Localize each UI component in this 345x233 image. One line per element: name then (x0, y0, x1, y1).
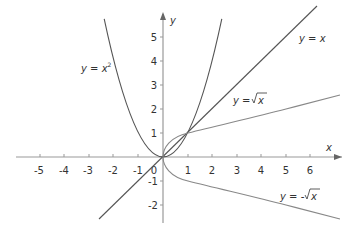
curve-sqrt (163, 95, 340, 157)
x-axis-label: x (325, 142, 332, 153)
svg-text:1: 1 (151, 128, 157, 139)
svg-text:2: 2 (151, 104, 157, 115)
label-neg-sqrt: y = - x (279, 189, 320, 202)
svg-text:-3: -3 (83, 165, 93, 176)
svg-text:-2: -2 (108, 165, 118, 176)
svg-text:3: 3 (234, 165, 240, 176)
y-axis-label: y (169, 15, 177, 26)
svg-text:x: x (257, 95, 264, 106)
svg-text:x: x (310, 191, 317, 202)
svg-text:y =: y = (232, 95, 250, 106)
curve-identity (99, 6, 317, 219)
label-x-squared: y = x2 (80, 61, 112, 74)
x-tick-labels: -5 -4 -3 -2 -1 0 1 2 3 4 5 6 (34, 165, 313, 176)
function-graph: -5 -4 -3 -2 -1 0 1 2 3 4 5 6 5 4 3 2 1 -… (0, 0, 345, 233)
label-sqrt: y = x (232, 93, 267, 106)
x-axis-arrow-icon (334, 154, 342, 160)
svg-text:0: 0 (151, 165, 157, 176)
svg-text:1: 1 (185, 165, 191, 176)
y-axis-arrow-icon (160, 12, 166, 20)
svg-text:-2: -2 (148, 200, 158, 211)
svg-text:-1: -1 (133, 165, 143, 176)
svg-text:6: 6 (307, 165, 313, 176)
svg-text:-4: -4 (59, 165, 69, 176)
label-identity: y = x (298, 33, 326, 44)
svg-text:4: 4 (151, 56, 157, 67)
svg-text:-1: -1 (148, 176, 158, 187)
svg-text:y = x2: y = x2 (80, 61, 112, 74)
svg-text:y = -: y = - (279, 191, 305, 202)
svg-text:2: 2 (209, 165, 215, 176)
svg-text:3: 3 (151, 80, 157, 91)
y-tick-labels: 5 4 3 2 1 -1 -2 (148, 32, 158, 211)
svg-text:5: 5 (283, 165, 289, 176)
svg-text:5: 5 (151, 32, 157, 43)
svg-text:4: 4 (258, 165, 264, 176)
svg-text:-5: -5 (34, 165, 44, 176)
